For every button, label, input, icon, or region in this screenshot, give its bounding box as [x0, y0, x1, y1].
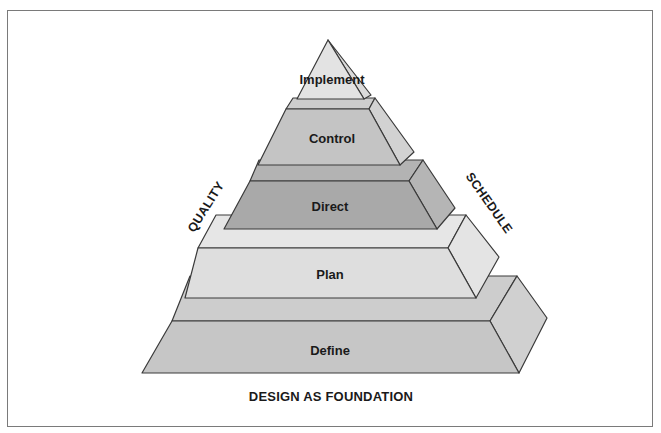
level-implement — [297, 40, 371, 99]
level-label-direct: Direct — [312, 199, 349, 214]
pyramid-diagram — [0, 0, 661, 433]
control-top-face — [286, 98, 375, 109]
level-label-control: Control — [309, 131, 355, 146]
level-label-define: Define — [310, 343, 350, 358]
level-label-plan: Plan — [316, 267, 343, 282]
level-label-implement: Implement — [299, 72, 364, 87]
diagram-caption: DESIGN AS FOUNDATION — [249, 389, 413, 404]
level-direct — [224, 160, 455, 229]
implement-front-face — [297, 40, 364, 99]
